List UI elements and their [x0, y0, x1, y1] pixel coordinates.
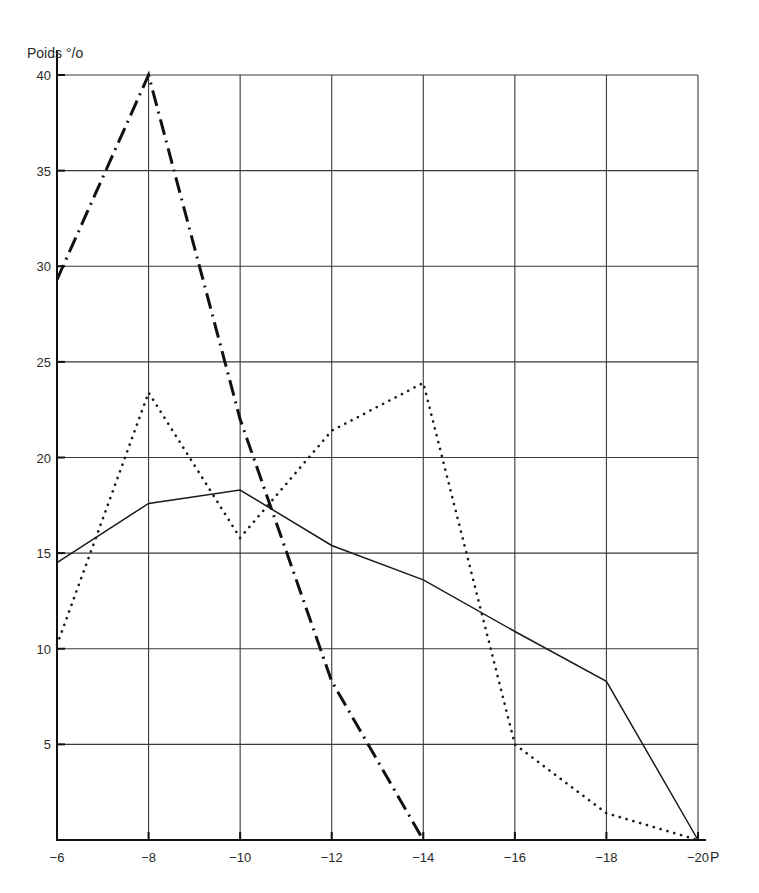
y-tick-label: 25 — [37, 355, 51, 370]
y-tick-label: 40 — [37, 68, 51, 83]
y-tick-label: 35 — [37, 164, 51, 179]
y-tick-label: 10 — [37, 642, 51, 657]
y-axis-tick-labels: 510152025303540 — [37, 68, 51, 752]
x-tick-label: −6 — [50, 850, 65, 865]
line-chart: 510152025303540 −6−8−10−12−14−16−18−20 P… — [0, 0, 759, 893]
x-tick-label: −10 — [229, 850, 251, 865]
series-line-dotted — [57, 383, 698, 840]
y-tick-label: 5 — [44, 737, 51, 752]
chart-grid — [57, 75, 698, 840]
y-tick-label: 15 — [37, 546, 51, 561]
x-tick-label: −14 — [412, 850, 434, 865]
chart-axes — [56, 50, 706, 841]
x-axis-tick-labels: −6−8−10−12−14−16−18−20 — [50, 850, 709, 865]
y-tick-label: 30 — [37, 259, 51, 274]
x-tick-label: −8 — [141, 850, 156, 865]
y-tick-label: 20 — [37, 451, 51, 466]
x-tick-label: −20 — [687, 850, 709, 865]
x-tick-label: −16 — [504, 850, 526, 865]
x-axis-title: P — [710, 849, 719, 865]
x-tick-label: −18 — [595, 850, 617, 865]
series-line-solid — [57, 490, 698, 840]
x-tick-label: −12 — [321, 850, 343, 865]
y-axis-title: Poids °/o — [27, 45, 83, 61]
